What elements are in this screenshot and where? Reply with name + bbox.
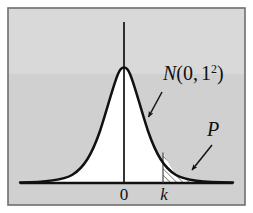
probability-label: P	[206, 118, 219, 140]
normal-distribution-figure: N(0,12) P 0 k	[0, 0, 253, 213]
figure-root: N(0,12) P 0 k	[0, 0, 253, 213]
distribution-label-sd-base: 1	[201, 62, 211, 84]
distribution-label-mean: 0	[183, 62, 193, 84]
origin-tick-label: 0	[120, 185, 129, 204]
k-tick-label: k	[160, 185, 168, 204]
distribution-label-comma: ,	[193, 62, 198, 84]
distribution-label-close-paren: )	[217, 62, 224, 85]
